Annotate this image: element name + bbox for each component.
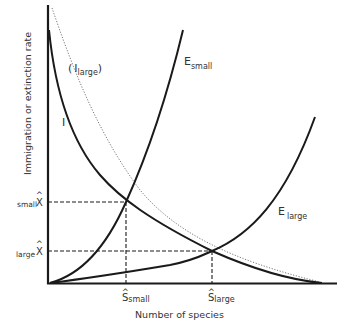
extinction-small-label: Esmall [184, 55, 212, 71]
y-axis-title: Immigration or extinction rate [22, 32, 33, 175]
diagram-canvas: (Ilarge) I Esmall Elarge small ^ X large… [0, 0, 350, 322]
immigration-large-label: (Ilarge) [68, 62, 102, 77]
s-small-label: Ssmall [122, 292, 150, 304]
s-large-label: Slarge [208, 292, 235, 304]
x-large-prefix: large [16, 250, 35, 259]
extinction-large-label: Elarge [278, 205, 307, 221]
immigration-label: I [62, 116, 65, 129]
x-axis-title: Number of species [135, 309, 224, 320]
immigration-large-curve [52, 8, 320, 282]
x-small-prefix: small [17, 200, 37, 209]
x-small-symbol: X [36, 197, 43, 208]
x-large-symbol: X [36, 246, 43, 257]
island-biogeography-diagram: (Ilarge) I Esmall Elarge small ^ X large… [0, 0, 350, 322]
